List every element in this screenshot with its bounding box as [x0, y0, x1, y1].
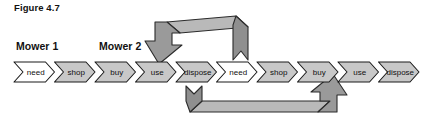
chevron-label: dispose	[184, 68, 212, 77]
chevron-label: use	[353, 68, 366, 77]
chevron-label: need	[27, 68, 45, 77]
chain-stage-need-1[interactable]: need	[14, 62, 55, 82]
chevron-label: buy	[110, 68, 123, 77]
chevron-label: shop	[68, 68, 86, 77]
chain-stage-shop-1[interactable]: shop	[55, 62, 96, 82]
chain-stage-dispose-1[interactable]: dispose	[176, 62, 217, 82]
figure-container: Figure 4.7 Mower 1 Mower 2 needshopbuyus…	[0, 0, 430, 134]
chain-stage-use-2[interactable]: use	[338, 62, 379, 82]
chain-stage-dispose-2[interactable]: dispose	[379, 62, 420, 82]
chain-stage-buy-1[interactable]: buy	[95, 62, 136, 82]
chevron-label: buy	[313, 68, 326, 77]
chain-stage-need-2[interactable]: need	[217, 62, 258, 82]
chain-stage-use-1[interactable]: use	[136, 62, 177, 82]
chevron-label: use	[151, 68, 164, 77]
consumption-chain: needshopbuyusedisposeneedshopbuyusedispo…	[0, 0, 430, 134]
chain-stage-shop-2[interactable]: shop	[257, 62, 298, 82]
chevron-label: need	[229, 68, 247, 77]
chevron-label: dispose	[386, 68, 414, 77]
chevron-label: shop	[270, 68, 288, 77]
chain-stage-buy-2[interactable]: buy	[298, 62, 339, 82]
